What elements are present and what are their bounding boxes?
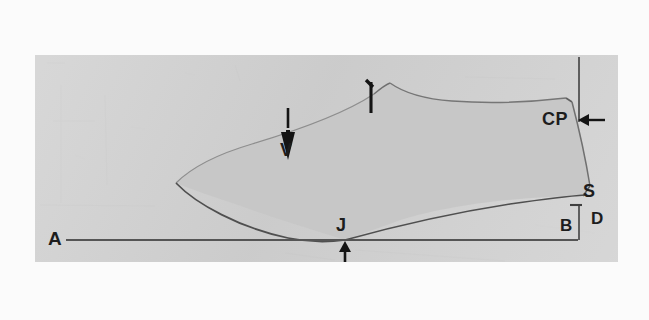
page-margin-top (0, 0, 649, 55)
label-J: J (336, 215, 347, 236)
page-margin-bottom (0, 262, 649, 320)
label-V: V (280, 140, 293, 161)
label-A: A (48, 228, 62, 250)
label-S: S (583, 181, 596, 202)
label-D: D (591, 209, 604, 229)
arrow-cp-left (578, 114, 605, 126)
label-B: B (560, 216, 573, 236)
page-margin-right (618, 0, 649, 320)
diagram-canvas: A V CP S B D J (0, 0, 649, 320)
label-CP: CP (542, 109, 568, 130)
last-body-shape (176, 84, 590, 240)
